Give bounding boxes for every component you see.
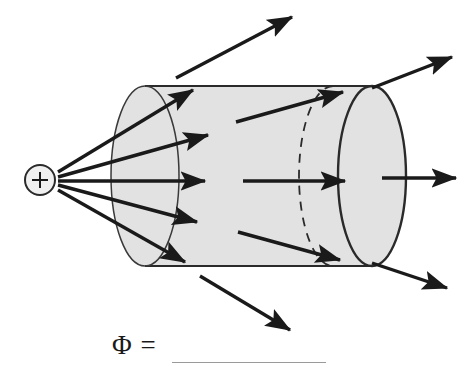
flux-diagram-canvas (0, 0, 466, 382)
exit-arrow-upper-right (372, 57, 452, 88)
exit-arrow-lower-right (372, 263, 447, 288)
answer-blank[interactable] (172, 362, 326, 363)
flux-equation-label: Φ = (112, 330, 157, 361)
exit-arrow-top (176, 17, 292, 78)
exit-arrow-bottom (200, 276, 290, 330)
point-charge (25, 165, 55, 195)
